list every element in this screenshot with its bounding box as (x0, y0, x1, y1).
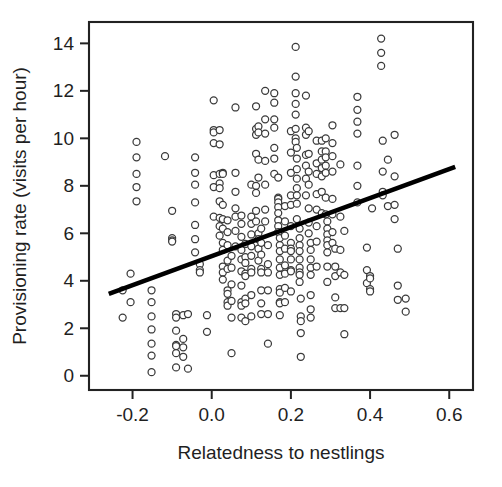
data-point (192, 249, 199, 256)
data-point (384, 156, 391, 163)
data-point (162, 153, 169, 160)
data-point (169, 207, 176, 214)
data-point (238, 212, 245, 219)
data-point (363, 244, 370, 251)
data-point (329, 140, 336, 147)
data-point (391, 201, 398, 208)
data-point (307, 306, 314, 313)
data-point (248, 292, 255, 299)
data-point (354, 162, 361, 169)
y-tick-label: 6 (63, 223, 74, 244)
data-point (402, 295, 409, 302)
data-point (276, 312, 283, 319)
data-point (262, 116, 269, 123)
data-point (238, 282, 245, 289)
data-point (293, 166, 300, 173)
data-point (271, 116, 278, 123)
data-point (271, 90, 278, 97)
data-point (248, 313, 255, 320)
data-point (192, 221, 199, 228)
data-point (293, 216, 300, 223)
data-point (287, 248, 294, 255)
data-point (148, 299, 155, 306)
data-point (329, 153, 336, 160)
data-point (292, 111, 299, 118)
data-point (292, 43, 299, 50)
data-point (293, 185, 300, 192)
data-point (302, 92, 309, 99)
data-point (127, 270, 134, 277)
data-point (293, 155, 300, 162)
data-point (248, 231, 255, 238)
data-point (262, 206, 269, 213)
data-point (133, 198, 140, 205)
y-tick-label: 4 (63, 270, 74, 291)
data-point (232, 205, 239, 212)
y-tick-label: 10 (53, 128, 74, 149)
data-point (354, 93, 361, 100)
data-point (148, 352, 155, 359)
data-point (228, 281, 235, 288)
data-point (378, 49, 385, 56)
data-point (322, 135, 329, 142)
data-point (255, 174, 262, 181)
x-tick-label: -0.2 (116, 404, 149, 425)
data-point (228, 350, 235, 357)
data-point (248, 269, 255, 276)
data-point (275, 174, 282, 181)
data-point (173, 364, 180, 371)
data-point (224, 290, 231, 297)
data-point (242, 318, 249, 325)
data-point (238, 220, 245, 227)
data-point (192, 169, 199, 176)
data-point (305, 205, 312, 212)
data-point (228, 252, 235, 259)
data-point (281, 232, 288, 239)
data-point (305, 168, 312, 175)
data-point (354, 106, 361, 113)
data-point (210, 97, 217, 104)
data-point (305, 230, 312, 237)
data-point (264, 340, 271, 347)
data-point (332, 263, 339, 270)
data-point (302, 192, 309, 199)
data-point (228, 314, 235, 321)
data-point (296, 271, 303, 278)
data-point (184, 365, 191, 372)
data-point (232, 227, 239, 234)
data-point (281, 299, 288, 306)
data-point (391, 216, 398, 223)
data-point (297, 330, 304, 337)
data-point (329, 229, 336, 236)
data-point (378, 35, 385, 42)
data-point (292, 100, 299, 107)
data-point (329, 195, 336, 202)
data-point (255, 156, 262, 163)
y-tick-label: 8 (63, 175, 74, 196)
data-point (275, 210, 282, 217)
data-point (192, 154, 199, 161)
data-point (322, 194, 329, 201)
data-point (297, 318, 304, 325)
data-point (384, 203, 391, 210)
data-point (281, 262, 288, 269)
data-point (127, 299, 134, 306)
data-point (248, 252, 255, 259)
data-point (253, 207, 260, 214)
data-point (258, 287, 265, 294)
y-tick-label: 12 (53, 80, 74, 101)
data-point (297, 353, 304, 360)
data-point (329, 168, 336, 175)
data-point (264, 242, 271, 249)
data-point (271, 144, 278, 151)
x-tick-label: 0.4 (357, 404, 384, 425)
data-point (313, 263, 320, 270)
data-point (271, 124, 278, 131)
data-point (296, 256, 303, 263)
data-point (354, 118, 361, 125)
data-point (184, 311, 191, 318)
data-point (173, 350, 180, 357)
data-point (253, 182, 260, 189)
data-point (341, 271, 348, 278)
data-point (287, 268, 294, 275)
